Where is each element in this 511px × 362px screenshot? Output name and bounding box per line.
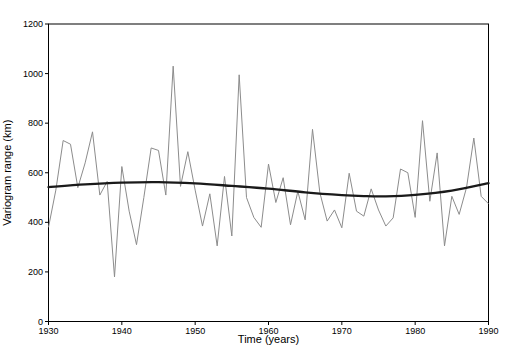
y-tick-label: 200: [28, 267, 43, 277]
x-tick-label: 1950: [185, 326, 205, 336]
annual-series-line: [49, 66, 489, 277]
variogram-figure: 1930194019501960197019801990020040060080…: [0, 0, 511, 362]
trend-line: [49, 182, 489, 196]
y-tick-label: 1000: [23, 69, 43, 79]
y-axis-title: Variogram range (km): [1, 120, 13, 226]
y-tick-label: 1200: [23, 19, 43, 29]
x-tick-label: 1940: [112, 326, 132, 336]
x-tick-label: 1930: [38, 326, 58, 336]
y-tick-label: 600: [28, 168, 43, 178]
data-series: [49, 66, 489, 277]
y-tick-label: 0: [38, 317, 43, 327]
x-tick-label: 1990: [478, 326, 498, 336]
y-tick-label: 400: [28, 217, 43, 227]
x-tick-label: 1970: [332, 326, 352, 336]
x-tick-label: 1980: [405, 326, 425, 336]
variogram-chart: 1930194019501960197019801990020040060080…: [0, 0, 511, 362]
x-axis-title: Time (years): [238, 333, 299, 345]
y-tick-label: 800: [28, 118, 43, 128]
